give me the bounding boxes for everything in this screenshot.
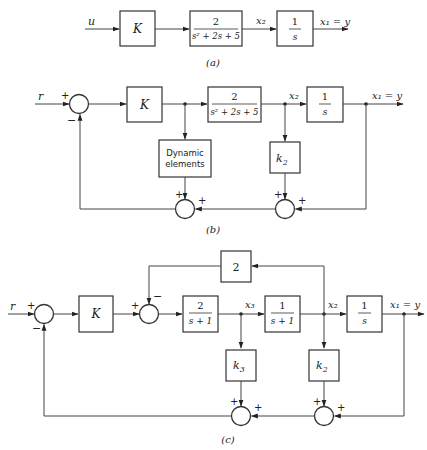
integrator-numerator: 1 (322, 91, 328, 102)
sum3-plus-top: + (274, 189, 282, 200)
caption-a: (a) (206, 57, 220, 68)
input-label-r: r (10, 300, 16, 313)
sum4-plus-right: + (337, 402, 345, 413)
signal-x3: x₃ (245, 299, 255, 310)
gain-2-label: 2 (233, 261, 240, 274)
sum2-minus-sign: − (153, 290, 162, 303)
output-label: x₁ = y (320, 16, 350, 27)
diagram-c: r + − K + − 2 s + 1 x₃ 1 s + 1 x₂ 1 s x₁… (8, 251, 424, 445)
integrator-denominator: s (323, 107, 328, 117)
plant-denominator: s² + 2s + 5 (192, 31, 240, 41)
block-K-label: K (132, 22, 143, 36)
diagram-a: u K 2 s² + 2s + 5 x₂ 1 s x₁ = y (a) (85, 11, 350, 68)
output-label: x₁ = y (390, 299, 420, 310)
sum3-plus-right: + (298, 195, 306, 206)
block-K-label: K (139, 98, 150, 112)
summing-junction-1 (70, 95, 89, 114)
integrator-numerator: 1 (292, 16, 298, 27)
dynamic-elements-line1: Dynamic (166, 148, 204, 158)
sum2-plus-top: + (175, 189, 183, 200)
summing-junction-3 (276, 200, 295, 219)
sum4-plus-top: + (313, 396, 321, 407)
sum3-plus-right: + (254, 402, 262, 413)
integrator-denominator: s (362, 316, 367, 326)
g2-numerator: 1 (279, 300, 285, 311)
summing-junction-2 (140, 305, 159, 324)
output-label: x₁ = y (372, 90, 402, 101)
sum3-plus-top: + (230, 396, 238, 407)
plant-numerator: 2 (231, 91, 237, 102)
sum1-plus-sign: + (27, 300, 35, 311)
g1-denominator: s + 1 (189, 316, 213, 326)
summing-junction-3 (232, 407, 251, 426)
summing-junction-2 (176, 200, 195, 219)
block-diagram-figure: u K 2 s² + 2s + 5 x₂ 1 s x₁ = y (a) r + … (0, 0, 427, 450)
sum2-plus-sign: + (131, 300, 139, 311)
sum1-minus-sign: − (32, 322, 41, 335)
caption-c: (c) (221, 434, 235, 445)
sum1-minus-sign: − (67, 114, 76, 127)
input-label-r: r (38, 90, 44, 103)
input-label-u: u (88, 15, 95, 28)
signal-x2: x₂ (328, 299, 338, 310)
plant-numerator: 2 (213, 16, 219, 27)
sum1-plus-sign: + (61, 90, 69, 101)
dynamic-elements-line2: elements (165, 159, 205, 169)
block-K-label: K (91, 307, 102, 321)
signal-x2: x₂ (256, 15, 266, 26)
plant-denominator: s² + 2s + 5 (211, 107, 259, 117)
g1-numerator: 2 (197, 300, 203, 311)
integrator-numerator: 1 (361, 300, 367, 311)
diagram-b: r + − K 2 s² + 2s + 5 x₂ 1 s x₁ = y Dyna… (35, 87, 403, 235)
caption-b: (b) (206, 224, 220, 235)
summing-junction-1 (35, 305, 54, 324)
signal-x2: x₂ (289, 90, 299, 101)
sum2-plus-right: + (198, 195, 206, 206)
summing-junction-4 (315, 407, 334, 426)
integrator-denominator: s (293, 32, 298, 42)
g2-denominator: s + 1 (271, 316, 295, 326)
